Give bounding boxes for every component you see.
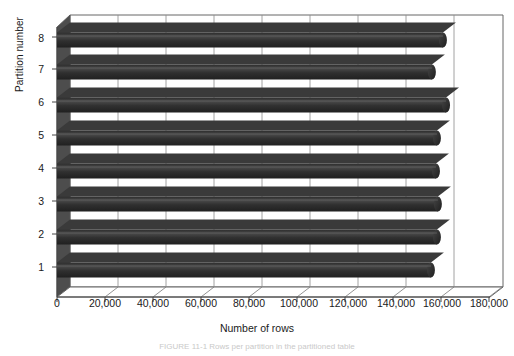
bar-body [57,164,436,179]
x-tick-label: 40,000 [137,297,169,309]
x-axis-title: Number of rows [0,322,514,334]
bar-end-cap [432,164,440,179]
bar-top-face [57,55,445,65]
bar [57,154,449,179]
x-tick-label: 100,000 [280,297,318,309]
bar-highlight [57,166,436,168]
x-tick-label: 0 [54,297,60,309]
plot-floor [57,287,503,297]
x-tick-label: 180,000 [470,297,508,309]
chart-figure: Partition number 1 2 3 4 5 6 7 8 [0,0,514,356]
x-tick-label: 60,000 [185,297,217,309]
x-axis-tick-labels: 0 20,000 40,000 60,000 80,000 100,000 12… [0,297,514,313]
bar [57,23,456,48]
bar-end-cap [442,98,450,113]
bar-end-cap [434,197,442,212]
bar [57,187,451,212]
bar-top-face [57,154,449,164]
x-tick-label: 160,000 [423,297,461,309]
bar-top-face [57,187,451,197]
bar-end-cap [439,33,447,48]
x-tick-label: 120,000 [329,297,367,309]
bar-top-face [57,23,456,33]
bar-top-face [57,121,450,131]
bar-highlight [57,265,431,267]
bar-end-cap [428,65,436,80]
bar-end-cap [433,230,441,245]
bar-body [57,230,437,245]
bar-highlight [57,133,437,135]
x-tick-label: 20,000 [89,297,121,309]
bar-end-cap [427,263,435,278]
bar-body [57,98,446,113]
bar [57,253,444,278]
bar-highlight [57,100,446,102]
x-tick-label: 80,000 [233,297,265,309]
bar-top-face [57,88,459,98]
x-tick-label: 140,000 [377,297,415,309]
bar-highlight [57,67,432,69]
bar-body [57,65,432,80]
bar-body [57,263,431,278]
bar [57,88,459,113]
bar-highlight [57,199,438,201]
bar-body [57,197,438,212]
bar [57,220,450,245]
bar-end-cap [433,131,441,146]
figure-caption: FIGURE 11-1 Rows per partition in the pa… [0,342,514,351]
bar-body [57,131,437,146]
bar-top-face [57,253,444,263]
bar-body [57,33,443,48]
y-axis-ticks [52,37,57,267]
bar-highlight [57,35,443,37]
bar [57,121,450,146]
bar-highlight [57,232,437,234]
bar [57,55,445,80]
bar-top-face [57,220,450,230]
